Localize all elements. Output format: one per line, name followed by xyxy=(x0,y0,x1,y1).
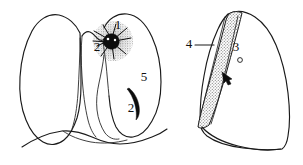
lateral-chest-view: 4 3 xyxy=(186,12,290,150)
label-2-hilar-mass: 2 xyxy=(94,39,101,54)
mass-core-highlight-2 xyxy=(114,39,116,41)
right-mediastinal-border xyxy=(72,38,80,129)
diagram-canvas: 1 2 2 5 xyxy=(0,0,303,165)
lung-diagram-figure: 1 2 2 5 xyxy=(0,0,303,165)
lateral-diaphragm xyxy=(202,127,281,150)
diaphragm-outline xyxy=(22,129,167,147)
small-circle-marker xyxy=(238,58,243,63)
mass-core xyxy=(103,34,119,49)
label-1-upper-lobe: 1 xyxy=(115,17,122,32)
right-lung-outline xyxy=(20,15,81,145)
label-2-lower-lesion: 2 xyxy=(128,100,135,115)
mass-core-highlight xyxy=(107,38,110,41)
frontal-chest-view: 1 2 2 5 xyxy=(20,14,167,147)
label-5-lateral-lung-field: 5 xyxy=(141,69,148,84)
diaphragm-inner-line xyxy=(63,131,127,143)
label-3-fissure: 3 xyxy=(233,39,240,54)
label-4-wedge-opacity: 4 xyxy=(186,36,193,51)
